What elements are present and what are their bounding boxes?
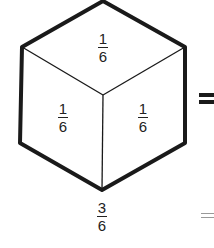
equals-sign-large-top xyxy=(199,93,214,97)
equals-sign-small-top xyxy=(201,213,214,214)
fraction-right-face: 1 6 xyxy=(138,102,148,134)
edge-upper-right xyxy=(103,47,185,95)
equals-sign-large-bottom xyxy=(199,100,214,104)
fraction-top-face: 1 6 xyxy=(98,32,108,64)
edge-upper-left xyxy=(22,47,103,95)
denominator: 6 xyxy=(99,50,107,64)
fraction-left-face: 1 6 xyxy=(58,102,68,134)
fraction-total: 3 6 xyxy=(97,201,107,233)
numerator: 1 xyxy=(59,102,67,116)
numerator: 1 xyxy=(139,102,147,116)
edge-vertical xyxy=(102,95,103,190)
numerator: 3 xyxy=(98,201,106,215)
denominator: 6 xyxy=(59,120,67,134)
denominator: 6 xyxy=(98,219,106,233)
numerator: 1 xyxy=(99,32,107,46)
denominator: 6 xyxy=(139,120,147,134)
equals-sign-small-bottom xyxy=(201,217,214,218)
